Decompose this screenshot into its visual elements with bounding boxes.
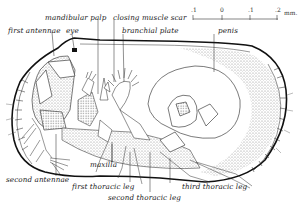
label-first-antennae: first antennae	[8, 27, 61, 34]
label-closing-muscle-scar: closing muscle scar	[113, 14, 186, 21]
scale-bar	[193, 15, 278, 20]
label-eye: eye	[66, 27, 79, 34]
label-maxilla: maxilla	[90, 161, 117, 168]
anatomy-diagram: first antennae eye mandibular palp closi…	[0, 0, 301, 206]
label-third-thoracic-leg: third thoracic leg	[182, 183, 247, 190]
scale-tick-label: .1	[191, 7, 197, 13]
scale-tick-label: 0	[220, 7, 224, 13]
scale-tick-label: .1	[248, 7, 254, 13]
label-second-antennae: second antennae	[6, 176, 69, 183]
eye-spot	[72, 48, 77, 52]
label-second-thoracic-leg: second thoracic leg	[108, 194, 181, 201]
label-mandibular-palp: mandibular palp	[45, 14, 106, 21]
label-first-thoracic-leg: first thoracic leg	[72, 183, 134, 190]
label-branchial-plate: branchial plate	[122, 27, 179, 34]
scale-tick-label: .2	[275, 7, 281, 13]
scale-unit-label: mm.	[284, 10, 297, 16]
label-penis: penis	[218, 27, 238, 34]
